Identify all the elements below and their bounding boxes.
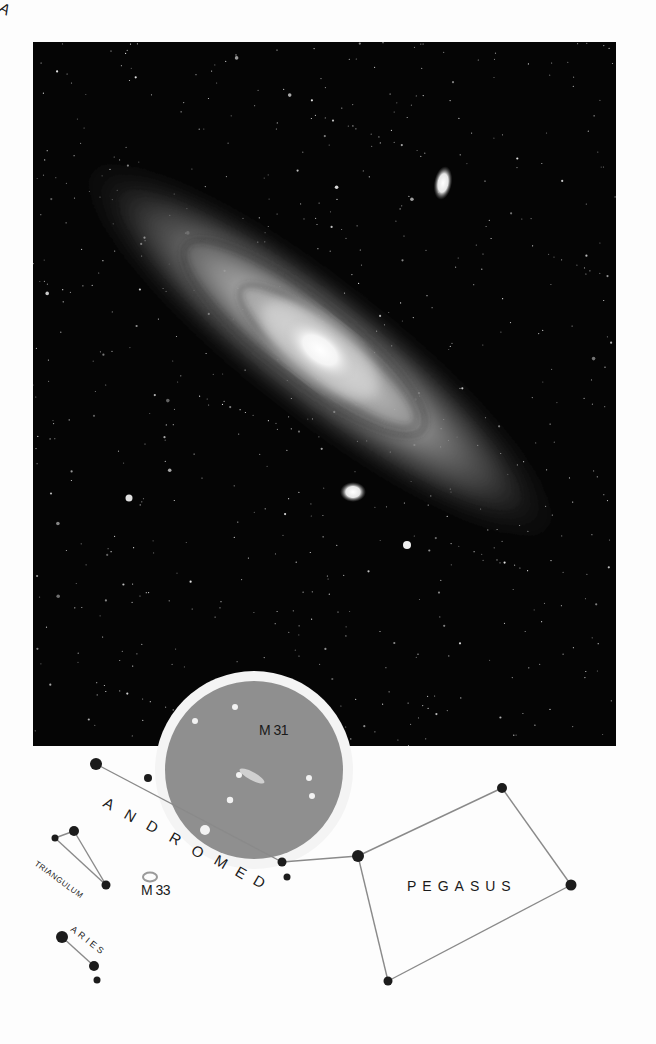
finder-circle xyxy=(165,681,343,859)
m33-label: M 33 xyxy=(141,882,170,898)
m31-label: M 31 xyxy=(259,722,288,738)
finder-chart xyxy=(0,0,656,1044)
m33-marker xyxy=(143,873,157,882)
pegasus-label: PEGASUS xyxy=(407,878,517,894)
